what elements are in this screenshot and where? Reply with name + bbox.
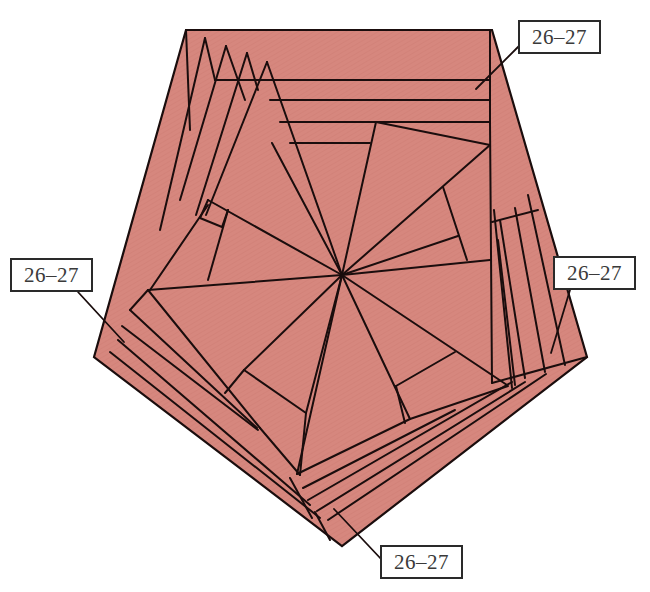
- page-ref-label-right: 26–27: [553, 256, 636, 290]
- page-ref-label-left: 26–27: [10, 258, 93, 292]
- page-ref-label-top-right: 26–27: [518, 20, 601, 54]
- page-ref-label-bottom: 26–27: [380, 545, 463, 579]
- origami-pentagon-diagram: [0, 0, 650, 592]
